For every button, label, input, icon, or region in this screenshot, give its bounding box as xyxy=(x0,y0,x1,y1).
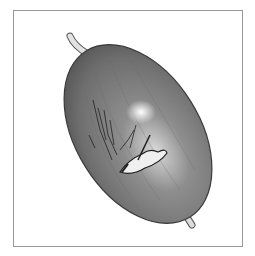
highlight xyxy=(126,100,156,124)
fruit-body xyxy=(33,18,242,250)
fruit-illustration xyxy=(0,0,255,256)
